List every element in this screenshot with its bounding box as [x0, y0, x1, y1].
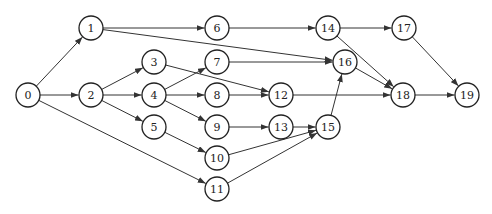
node-17: 17: [392, 16, 416, 40]
node-label: 3: [151, 56, 158, 69]
node-9: 9: [205, 115, 229, 139]
edge-5-to-10: [165, 132, 206, 152]
node-label: 7: [214, 56, 221, 69]
node-label: 2: [88, 89, 95, 102]
network-diagram-svg: 012345678910111213141516171819: [0, 0, 492, 214]
node-0: 0: [16, 83, 40, 107]
node-label: 16: [338, 56, 352, 69]
edge-17-to-19: [412, 37, 458, 86]
node-18: 18: [391, 83, 415, 107]
node-label: 18: [396, 89, 410, 102]
node-14: 14: [316, 16, 340, 40]
network-diagram: 012345678910111213141516171819: [0, 0, 492, 214]
node-16: 16: [333, 50, 357, 74]
edges-layer: [36, 28, 458, 183]
node-3: 3: [142, 50, 166, 74]
node-4: 4: [142, 83, 166, 107]
node-label: 9: [214, 121, 221, 134]
node-11: 11: [205, 177, 229, 201]
node-label: 1: [88, 22, 95, 35]
node-label: 8: [214, 89, 221, 102]
node-15: 15: [316, 115, 340, 139]
node-6: 6: [205, 16, 229, 40]
edge-4-to-9: [165, 100, 206, 121]
node-label: 15: [321, 121, 335, 134]
node-5: 5: [142, 115, 166, 139]
node-8: 8: [205, 83, 229, 107]
edge-0-to-1: [36, 37, 82, 86]
nodes-layer: 012345678910111213141516171819: [16, 16, 479, 201]
node-label: 13: [274, 121, 288, 134]
node-1: 1: [79, 16, 103, 40]
node-19: 19: [455, 83, 479, 107]
node-label: 14: [321, 22, 335, 35]
node-2: 2: [79, 83, 103, 107]
node-7: 7: [205, 50, 229, 74]
edge-16-to-18: [355, 68, 392, 89]
edge-4-to-7: [165, 68, 206, 90]
node-label: 17: [397, 22, 411, 35]
node-13: 13: [269, 115, 293, 139]
edge-11-to-15: [227, 133, 317, 183]
node-label: 12: [274, 89, 288, 102]
node-label: 19: [460, 89, 474, 102]
node-label: 5: [151, 121, 158, 134]
node-label: 11: [210, 183, 224, 196]
node-12: 12: [269, 83, 293, 107]
node-label: 4: [151, 89, 158, 102]
node-10: 10: [205, 146, 229, 170]
edge-2-to-3: [102, 68, 143, 90]
edge-0-to-11: [39, 100, 206, 183]
node-label: 6: [214, 22, 221, 35]
edge-2-to-5: [102, 100, 143, 121]
node-label: 0: [25, 89, 32, 102]
node-label: 10: [210, 152, 224, 165]
